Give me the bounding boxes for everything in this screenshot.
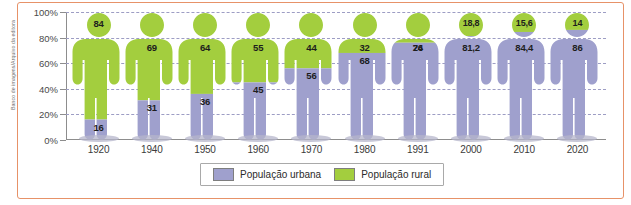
person-figure-svg: [232, 12, 284, 140]
urban-value-label: 76: [413, 42, 423, 53]
person-figure-svg: [339, 12, 391, 140]
y-axis-label: 0%: [44, 135, 58, 146]
figure-shadow: [132, 135, 172, 142]
x-axis-label: 1920: [73, 144, 125, 155]
urban-value-label: 16: [94, 122, 104, 133]
rural-value-label: 32: [360, 42, 370, 53]
x-axis-label: 1940: [126, 144, 178, 155]
legend-item-urban: População urbana: [213, 168, 321, 181]
person-figure: 8416: [73, 12, 125, 140]
figure-shadow: [291, 135, 331, 142]
rural-value-label: 18,8: [463, 18, 480, 28]
y-axis-label: 80%: [39, 32, 58, 43]
figure-shadow: [79, 135, 119, 142]
urban-value-label: 68: [360, 55, 370, 66]
person-figure: 1486: [551, 12, 603, 140]
urban-value-label: 45: [253, 84, 263, 95]
x-axis-label: 1970: [285, 144, 337, 155]
rural-value-label: 55: [253, 42, 263, 53]
x-axis-label: 1960: [232, 144, 284, 155]
person-figure: 6931: [126, 12, 178, 140]
rural-value-label: 84: [94, 18, 104, 29]
legend-swatch-urban: [213, 168, 234, 181]
y-axis-tick: [60, 140, 66, 141]
chart-legend: População urbana População rural: [200, 163, 444, 186]
person-figure-svg: [551, 12, 603, 140]
person-figure: 18,881,2: [445, 12, 497, 140]
person-figure: 2476: [392, 12, 444, 140]
figure-shadow: [238, 135, 278, 142]
person-figure-svg: [392, 12, 444, 140]
person-figure: 6436: [179, 12, 231, 140]
person-figure-svg: [498, 12, 550, 140]
image-credit: Banco de imagens/Arquivo da editora: [10, 5, 16, 125]
y-axis-label: 20%: [39, 109, 58, 120]
legend-label-rural: População rural: [361, 169, 431, 180]
x-axis-label: 1980: [339, 144, 391, 155]
urban-value-label: 56: [306, 70, 316, 81]
x-axis-label: 1991: [392, 144, 444, 155]
x-axis-label: 2020: [551, 144, 603, 155]
urban-value-label: 84,4: [515, 42, 533, 53]
figure-shadow: [504, 135, 544, 142]
rural-value-label: 64: [200, 42, 210, 53]
person-figure-svg: [179, 12, 231, 140]
urban-value-label: 86: [572, 42, 582, 53]
y-axis-label: 40%: [39, 83, 58, 94]
legend-swatch-rural: [334, 168, 355, 181]
person-figure-svg: [126, 12, 178, 140]
urban-value-label: 81,2: [462, 42, 480, 53]
figure-shadow: [451, 135, 491, 142]
rural-value-label: 15,6: [516, 18, 533, 28]
legend-label-urban: População urbana: [240, 169, 321, 180]
x-axis-label: 2000: [445, 144, 497, 155]
figure-shadow: [185, 135, 225, 142]
figure-series: 8416 6931 6436: [66, 12, 606, 140]
urban-value-label: 31: [147, 102, 157, 113]
y-axis-label: 100%: [34, 7, 58, 18]
figure-shadow: [557, 135, 597, 142]
x-axis-label: 1950: [179, 144, 231, 155]
rural-value-label: 69: [147, 42, 157, 53]
rural-value-label: 44: [306, 42, 316, 53]
urban-value-label: 36: [200, 96, 210, 107]
person-figure: 5545: [232, 12, 284, 140]
rural-value-label: 14: [573, 18, 583, 28]
figure-shadow: [345, 135, 385, 142]
y-axis-label: 60%: [39, 58, 58, 69]
plot-area: 100%80%60%40%20%0% 8416 6931: [66, 12, 606, 140]
legend-item-rural: População rural: [334, 168, 431, 181]
x-axis-label: 2010: [498, 144, 550, 155]
chart-root: Banco de imagens/Arquivo da editora 100%…: [0, 0, 631, 205]
figure-shadow: [398, 135, 438, 142]
person-figure: 15,684,4: [498, 12, 550, 140]
person-figure-svg: [445, 12, 497, 140]
person-figure: 4456: [285, 12, 337, 140]
person-figure: 3268: [339, 12, 391, 140]
